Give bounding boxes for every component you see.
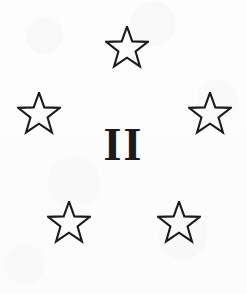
five-pointed-star-outline [106, 27, 148, 67]
star-bottom-left [47, 201, 91, 245]
emblem-page: II [0, 0, 247, 294]
star-bottom-right [157, 201, 201, 245]
five-pointed-star-outline [158, 202, 200, 242]
five-pointed-star-outline [48, 202, 90, 242]
star-top [105, 26, 149, 70]
roman-numeral-two-icon: II [0, 122, 247, 168]
